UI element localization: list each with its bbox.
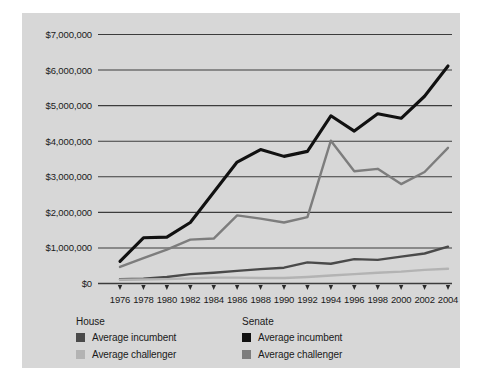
legend-item-label: Average challenger xyxy=(92,349,176,360)
y-axis-tick-label: $0 xyxy=(82,278,92,289)
x-axis-tick-label: 1990 xyxy=(274,294,294,305)
legend-swatch-icon xyxy=(242,333,251,342)
x-axis-tick-label: 1986 xyxy=(227,294,247,305)
series-line xyxy=(120,247,448,280)
x-axis-tick-label: 1994 xyxy=(321,294,341,305)
x-axis-tick-icon xyxy=(352,285,356,290)
legend-group-house: House Average incumbent Average challeng… xyxy=(76,316,246,366)
x-axis-tick-label: 1982 xyxy=(180,294,200,305)
x-axis-tick-label: 1998 xyxy=(368,294,388,305)
x-axis-labels: 1976197819801982198419861988199019921994… xyxy=(98,294,452,308)
y-axis-tick-label: $3,000,000 xyxy=(45,171,92,182)
legend-group-title: Senate xyxy=(242,316,412,327)
legend-group-senate: Senate Average incumbent Average challen… xyxy=(242,316,412,366)
y-axis-tick-label: $6,000,000 xyxy=(45,64,92,75)
x-axis-tick-icon xyxy=(376,285,380,290)
y-axis-tick-label: $5,000,000 xyxy=(45,100,92,111)
plot-area xyxy=(98,34,452,283)
x-axis-tick-label: 1988 xyxy=(250,294,270,305)
x-axis-tick-icon xyxy=(446,285,450,290)
legend-swatch-icon xyxy=(76,333,85,342)
series-line xyxy=(120,66,448,261)
x-axis-tick-label: 2002 xyxy=(414,294,434,305)
y-axis-tick-label: $2,000,000 xyxy=(45,206,92,217)
legend-item-label: Average challenger xyxy=(258,349,342,360)
legend-swatch-icon xyxy=(76,350,85,359)
legend-item: Average incumbent xyxy=(76,332,246,343)
legend-item: Average challenger xyxy=(76,349,246,360)
y-axis-labels: $0$1,000,000$2,000,000$3,000,000$4,000,0… xyxy=(22,34,92,283)
x-axis-tick-icon xyxy=(329,285,333,290)
x-axis-tick-icon xyxy=(422,285,426,290)
chart-figure: $0$1,000,000$2,000,000$3,000,000$4,000,0… xyxy=(22,13,460,368)
x-axis-tick-icon xyxy=(188,285,192,290)
x-axis-tick-label: 1976 xyxy=(110,294,130,305)
y-axis-tick-label: $1,000,000 xyxy=(45,242,92,253)
y-axis-tick-label: $7,000,000 xyxy=(45,29,92,40)
legend-item: Average challenger xyxy=(242,349,412,360)
x-axis-tick-icon xyxy=(258,285,262,290)
legend-swatch-icon xyxy=(242,350,251,359)
x-axis-tick-label: 1992 xyxy=(297,294,317,305)
x-axis-tick-label: 2000 xyxy=(391,294,411,305)
y-axis-tick-label: $4,000,000 xyxy=(45,135,92,146)
legend-group-title: House xyxy=(76,316,246,327)
x-axis-tick-label: 1978 xyxy=(133,294,153,305)
series-line xyxy=(120,269,448,280)
x-axis-tick-icon xyxy=(165,285,169,290)
x-axis-tick-icon xyxy=(399,285,403,290)
x-axis-tick-icon xyxy=(235,285,239,290)
x-axis-tick-icon xyxy=(282,285,286,290)
x-axis-tick-icon xyxy=(305,285,309,290)
legend-item-label: Average incumbent xyxy=(92,332,176,343)
legend-item: Average incumbent xyxy=(242,332,412,343)
chart-legend: House Average incumbent Average challeng… xyxy=(76,316,436,364)
x-axis-tick-label: 2004 xyxy=(438,294,458,305)
x-axis-tick-icon xyxy=(141,285,145,290)
x-axis-tick-label: 1996 xyxy=(344,294,364,305)
x-axis-tick-label: 1984 xyxy=(204,294,224,305)
x-axis-tick-icon xyxy=(212,285,216,290)
legend-item-label: Average incumbent xyxy=(258,332,342,343)
x-axis-tick-icon xyxy=(118,285,122,290)
x-axis-tick-label: 1980 xyxy=(157,294,177,305)
chart-canvas xyxy=(98,34,452,292)
